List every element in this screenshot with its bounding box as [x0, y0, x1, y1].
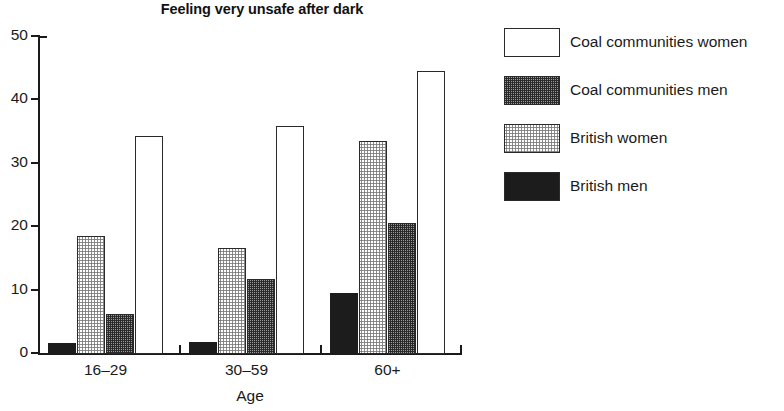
y-tick-label-wrap-30: 30: [0, 154, 28, 170]
y-tick-label-20: 20: [2, 217, 28, 233]
y-tick-label-wrap-0: 0: [0, 344, 28, 360]
legend-label: Coal communities men: [570, 80, 728, 101]
x-axis-title: Age: [180, 387, 320, 405]
legend-label: British women: [570, 128, 667, 149]
bar: [330, 293, 358, 354]
y-tick-30: [31, 162, 40, 164]
bar: [135, 136, 163, 354]
plot-area: 01020304050 16–2930–5960+ Age: [0, 0, 480, 411]
x-category-label: 16–29: [56, 361, 156, 378]
legend-label: Coal communities women: [570, 32, 747, 53]
legend-swatch-icon: [504, 124, 560, 153]
y-tick-label-wrap-10: 10: [0, 281, 28, 297]
legend-swatch-icon: [504, 28, 560, 57]
bar: [388, 223, 416, 354]
bar: [48, 343, 76, 354]
x-tick-0: [38, 345, 40, 355]
legend-swatch-icon: [504, 76, 560, 105]
y-tick-20: [31, 225, 40, 227]
x-tick-1: [179, 345, 181, 355]
legend-label: British men: [570, 176, 648, 197]
legend-swatch-icon: [504, 172, 560, 201]
bar: [77, 236, 105, 354]
y-tick-label-wrap-50: 50: [0, 27, 28, 43]
y-tick-label-wrap-40: 40: [0, 90, 28, 106]
bar: [218, 248, 246, 354]
x-tick-2: [320, 345, 322, 355]
bar: [247, 279, 275, 354]
bar: [276, 126, 304, 354]
x-category-label: 30–59: [197, 361, 297, 378]
y-tick-label-wrap-20: 20: [0, 217, 28, 233]
x-category-label: 60+: [338, 361, 438, 378]
bar: [417, 71, 445, 354]
x-axis-right-cap: [460, 345, 462, 355]
y-tick-label-30: 30: [2, 154, 28, 170]
y-tick-40: [31, 98, 40, 100]
y-tick-label-50: 50: [2, 27, 28, 43]
y-tick-label-0: 0: [2, 344, 28, 360]
bar: [189, 342, 217, 354]
y-tick-label-10: 10: [2, 281, 28, 297]
y-tick-10: [31, 289, 40, 291]
chart-figure: Feeling very unsafe after dark 010203040…: [0, 0, 784, 411]
y-axis-line: [38, 36, 40, 355]
y-tick-label-40: 40: [2, 90, 28, 106]
bar: [106, 314, 134, 354]
bar: [359, 141, 387, 354]
y-tick-50: [31, 35, 40, 37]
